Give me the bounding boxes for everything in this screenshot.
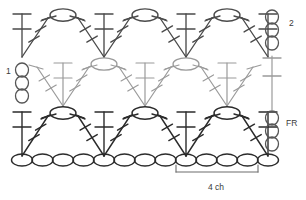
fan-bot-2 xyxy=(152,112,220,156)
oval-top-0 xyxy=(50,9,76,21)
fan-mid-1-post-left-leg xyxy=(119,67,145,106)
fan-mid-0-post-right-bar-1 xyxy=(70,85,80,91)
fan-mid-0-post-right-bar-0 xyxy=(77,75,87,81)
fan-mid-0-left-top-bar xyxy=(29,65,43,69)
oval-bot-2 xyxy=(214,107,240,119)
fan-top-0-post-centre xyxy=(13,14,31,57)
fan-bot-2-post-right-leg xyxy=(186,116,212,156)
fan-top-1-post-left-leg xyxy=(78,18,104,57)
fan-top-1-post-left-bar-1 xyxy=(87,36,97,42)
foundation-chain-row-oval-6 xyxy=(135,154,156,166)
fan-top-2-post-right-leg xyxy=(186,18,212,57)
oval-top-1-link-right xyxy=(158,17,167,21)
fan-top-1-post-right xyxy=(104,18,130,57)
fan-top-0 xyxy=(13,14,56,57)
fan-mid-0-post-centre xyxy=(54,63,72,106)
foundation-chain-row-oval-10 xyxy=(217,154,238,166)
fan-mid-0-post-left-bar-1 xyxy=(46,85,56,91)
edge-chain-left-oval-1 xyxy=(16,76,29,90)
fan-top-2 xyxy=(152,14,220,57)
oval-mid-1-link-left xyxy=(164,66,173,70)
fan-mid-1-post-left-bar-1 xyxy=(128,85,138,91)
foundation-chain-row-oval-7 xyxy=(155,154,176,166)
fan-top-1-post-left-bar-0 xyxy=(80,26,90,32)
fan-mid-1-post-right-bar-1 xyxy=(152,85,162,91)
fan-top-3-post-left-bar-0 xyxy=(244,26,254,32)
fan-top-2-post-left xyxy=(160,18,186,57)
fan-top-2-post-right-bar-1 xyxy=(193,36,203,42)
fan-top-2-post-right-bar-0 xyxy=(200,26,210,32)
edge-chain-left xyxy=(16,63,29,103)
fan-top-2-post-left-leg xyxy=(160,18,186,57)
oval-top-0-link-right xyxy=(76,17,85,21)
row-middle xyxy=(29,58,261,106)
fan-top-1-post-right-leg xyxy=(104,18,130,57)
crochet-chart-diagram: 21FR4 ch xyxy=(0,0,306,200)
row-label-2: 2 xyxy=(289,18,294,28)
fan-mid-1-post-centre xyxy=(136,63,154,106)
fan-mid-2-right-top-bar xyxy=(247,65,261,69)
oval-top-0-link-left xyxy=(41,17,50,21)
oval-top-2 xyxy=(214,9,240,21)
oval-mid-1-link-right xyxy=(199,66,208,70)
fan-top-2-post-left-bar-0 xyxy=(162,26,172,32)
fan-mid-0-post-right-leg xyxy=(63,67,89,106)
fan-bot-3-post-left-bar-1 xyxy=(251,135,261,141)
fan-bot-2-post-left-bar-1 xyxy=(169,135,179,141)
oval-top-1 xyxy=(132,9,158,21)
oval-mid-1 xyxy=(173,58,199,70)
fan-bot-0 xyxy=(13,112,56,156)
edge-chain-left-oval-2 xyxy=(16,89,29,103)
oval-mid-0-link-left xyxy=(82,66,91,70)
fan-mid-2-post-right-bar-0 xyxy=(241,75,251,81)
fan-bot-0-post-right-bar-0 xyxy=(36,124,46,130)
fan-bot-2-post-right-bar-1 xyxy=(193,135,203,141)
fan-bot-0-post-right-leg xyxy=(22,116,48,156)
fan-mid-2-post-left-bar-0 xyxy=(203,75,213,81)
fan-mid-2-post-left xyxy=(201,67,227,106)
fan-top-2-post-left-bar-1 xyxy=(169,36,179,42)
fan-bot-2-post-right xyxy=(186,116,212,156)
fan-bot-0-post-centre xyxy=(13,112,31,156)
fan-bot-3 xyxy=(234,112,277,156)
fan-bot-3-post-left-bar-0 xyxy=(244,124,254,130)
foundation-chain-row-oval-2 xyxy=(53,154,74,166)
fan-bot-0-post-right xyxy=(22,116,48,156)
fan-top-0-post-right xyxy=(22,18,48,57)
fan-top-1-post-right-bar-0 xyxy=(118,26,128,32)
oval-bot-0 xyxy=(50,107,76,119)
chart-canvas: 21FR4 ch xyxy=(0,0,306,200)
oval-mid-0-link-right xyxy=(117,66,126,70)
fan-mid-0-post-right xyxy=(63,67,89,106)
fan-top-0-post-right-bar-0 xyxy=(36,26,46,32)
fan-mid-2-post-left-leg xyxy=(201,67,227,106)
oval-bot-0-link-left xyxy=(41,115,50,119)
fan-bot-1-post-left-leg xyxy=(78,116,104,156)
row-1 xyxy=(13,107,277,156)
fan-bot-1-post-right-bar-1 xyxy=(111,135,121,141)
fan-mid-2-post-right-bar-1 xyxy=(234,85,244,91)
oval-top-2-link-left xyxy=(205,17,214,21)
fan-top-1-post-left xyxy=(78,18,104,57)
fan-mid-1 xyxy=(111,63,179,106)
fan-bot-3-post-left xyxy=(242,116,268,156)
oval-top-1-link-left xyxy=(123,17,132,21)
fan-bot-1-post-right-leg xyxy=(104,116,130,156)
fan-bot-1-post-right-bar-0 xyxy=(118,124,128,130)
fan-mid-1-post-right xyxy=(145,67,171,106)
oval-bot-1 xyxy=(132,107,158,119)
foundation-chain-row-oval-5 xyxy=(114,154,135,166)
fan-mid-1-post-left-bar-0 xyxy=(121,75,131,81)
fan-top-0-post-right-leg xyxy=(22,18,48,57)
fan-bot-2-post-left-bar-0 xyxy=(162,124,172,130)
fan-bot-1-post-right xyxy=(104,116,130,156)
foundation-chain-row-oval-3 xyxy=(73,154,94,166)
fan-top-3-post-left xyxy=(242,18,268,57)
measure-4ch: 4 ch xyxy=(208,182,224,192)
foundation-chain-row xyxy=(12,154,279,166)
row-label-1: 1 xyxy=(6,66,11,76)
oval-bot-2-link-left xyxy=(205,115,214,119)
fan-bot-1 xyxy=(70,112,138,156)
fan-top-3-post-left-bar-1 xyxy=(251,36,261,42)
row-label-fr: FR xyxy=(286,118,297,128)
